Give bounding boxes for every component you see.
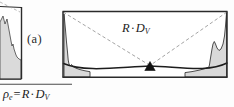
center-label-d: D [136,21,145,35]
cropped-left-panel [0,2,22,79]
center-label-rdv: R·DV [122,22,150,36]
figure-container: (a) R·DV ρe=R·DV [0,0,234,107]
center-label-r: R [122,21,130,35]
formula-equals: = [13,87,22,101]
panel-label-a: (a) [27,33,42,46]
formula-subscript: V [44,93,49,102]
formula-rho-equals-r-dv: ρe=R·DV [3,88,49,102]
center-label-subscript: V [145,27,150,36]
